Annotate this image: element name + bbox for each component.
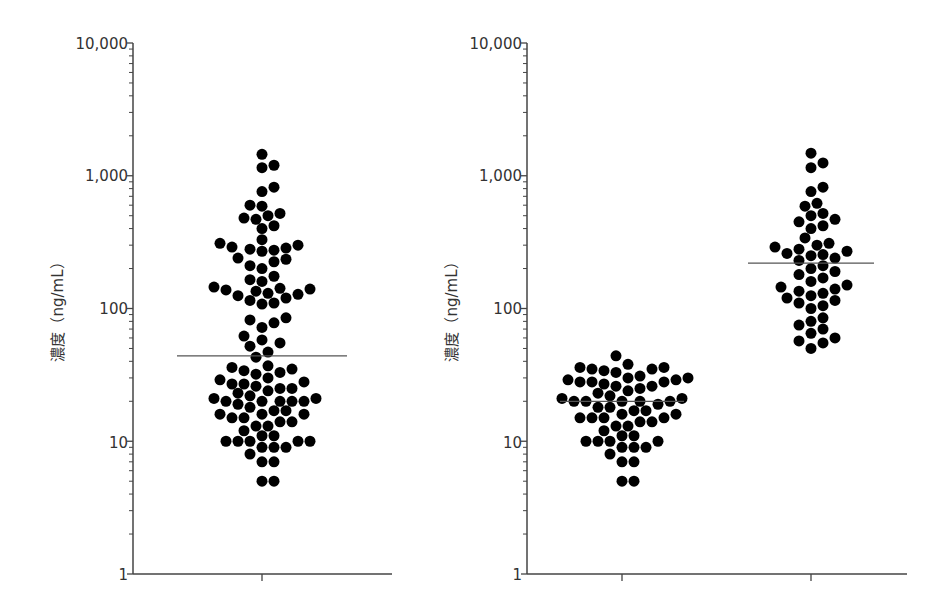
data-point <box>794 255 805 266</box>
data-point <box>251 214 262 225</box>
data-point <box>806 223 817 234</box>
data-point <box>257 162 268 173</box>
data-point <box>806 162 817 173</box>
axes-left <box>127 43 392 581</box>
data-point <box>275 396 286 407</box>
data-point <box>794 335 805 346</box>
data-point <box>269 476 280 487</box>
data-point <box>281 292 292 303</box>
data-point <box>617 409 628 420</box>
data-point <box>806 290 817 301</box>
data-point <box>794 286 805 297</box>
data-point <box>830 266 841 277</box>
data-point <box>245 200 256 211</box>
data-point <box>842 280 853 291</box>
chart-left: 濃度（ng/mL） 10,000 1,000 100 10 1 <box>49 35 392 584</box>
data-point <box>257 334 268 345</box>
data-point <box>299 376 310 387</box>
data-point <box>245 449 256 460</box>
data-point <box>275 337 286 348</box>
data-point <box>806 250 817 261</box>
data-point <box>257 456 268 467</box>
data-point <box>233 436 244 447</box>
data-point <box>269 271 280 282</box>
data-point <box>275 367 286 378</box>
data-point <box>275 416 286 427</box>
data-point <box>818 208 829 219</box>
data-point <box>599 378 610 389</box>
data-point <box>806 210 817 221</box>
y-tick-label: 10,000 <box>470 35 523 53</box>
data-point <box>215 374 226 385</box>
data-point <box>818 182 829 193</box>
data-point <box>299 409 310 420</box>
data-point <box>641 405 652 416</box>
data-point <box>611 381 622 392</box>
y-tick-label: 10 <box>109 434 128 452</box>
data-point <box>239 365 250 376</box>
data-point <box>818 260 829 271</box>
data-point <box>812 198 823 209</box>
data-point <box>257 186 268 197</box>
data-point <box>263 385 274 396</box>
data-point <box>269 430 280 441</box>
data-point <box>221 284 232 295</box>
data-point <box>281 254 292 265</box>
data-point <box>782 248 793 259</box>
data-point <box>239 213 250 224</box>
data-point <box>623 372 634 383</box>
y-tick-label: 10 <box>503 434 522 452</box>
data-point <box>245 260 256 271</box>
data-point <box>800 232 811 243</box>
data-point <box>263 288 274 299</box>
y-axis-label-right: 濃度（ng/mL） <box>443 254 461 361</box>
data-point <box>587 412 598 423</box>
data-point <box>293 240 304 251</box>
data-point <box>635 416 646 427</box>
data-point <box>599 425 610 436</box>
data-point <box>227 412 238 423</box>
data-point <box>239 331 250 342</box>
data-point <box>287 383 298 394</box>
data-point <box>623 421 634 432</box>
data-point <box>239 412 250 423</box>
data-point <box>269 298 280 309</box>
data-point <box>581 436 592 447</box>
data-point <box>257 246 268 257</box>
data-point <box>611 350 622 361</box>
data-point <box>617 456 628 467</box>
data-point <box>209 282 220 293</box>
data-point <box>806 263 817 274</box>
data-point <box>257 223 268 234</box>
data-point <box>629 456 640 467</box>
data-point <box>794 269 805 280</box>
data-point <box>245 402 256 413</box>
data-point <box>275 283 286 294</box>
data-point <box>842 246 853 257</box>
data-point <box>635 383 646 394</box>
data-point <box>257 396 268 407</box>
data-point <box>269 256 280 267</box>
data-point <box>245 244 256 255</box>
data-point <box>605 402 616 413</box>
data-point <box>776 282 787 293</box>
data-point <box>770 242 781 253</box>
data-point <box>671 374 682 385</box>
data-point <box>599 412 610 423</box>
data-point <box>215 409 226 420</box>
data-point <box>575 362 586 373</box>
data-point <box>275 383 286 394</box>
data-point <box>818 220 829 231</box>
data-point <box>593 436 604 447</box>
data-point <box>251 421 262 432</box>
dot-plot-figure: 濃度（ng/mL） 10,000 1,000 100 10 1 濃度（ng/mL… <box>0 0 948 606</box>
y-tick-label: 1,000 <box>479 167 522 185</box>
data-point <box>269 160 280 171</box>
data-point <box>245 295 256 306</box>
data-point <box>215 238 226 249</box>
data-point <box>257 263 268 274</box>
data-point <box>617 476 628 487</box>
data-point <box>245 274 256 285</box>
data-point <box>257 201 268 212</box>
data-point <box>281 442 292 453</box>
